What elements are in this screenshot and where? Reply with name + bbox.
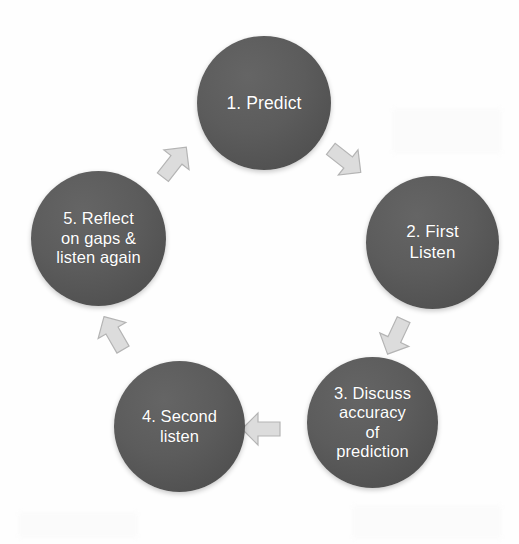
arrow-up-left-icon — [81, 301, 147, 367]
cycle-node-5-reflect: 5. Reflect on gaps & listen again — [31, 171, 166, 306]
cycle-node-1-predict: 1. Predict — [197, 36, 331, 170]
arrow-up-right-icon — [140, 129, 207, 196]
cycle-node-1-label: 1. Predict — [221, 93, 308, 114]
cycle-node-2-first-listen: 2. First Listen — [366, 176, 499, 309]
cycle-node-4-second-listen: 4. Second listen — [114, 361, 245, 492]
cycle-node-3-label: 3. Discuss accuracy of prediction — [328, 384, 417, 462]
diagram-canvas: 1. Predict 2. First Listen 3. Discuss ac… — [0, 0, 519, 544]
cycle-node-5-label: 5. Reflect on gaps & listen again — [50, 209, 147, 267]
cycle-node-4-label: 4. Second listen — [136, 407, 223, 446]
cycle-node-3-discuss-accuracy: 3. Discuss accuracy of prediction — [307, 357, 438, 488]
cycle-node-2-label: 2. First Listen — [400, 222, 465, 262]
cycle-diagram: 1. Predict 2. First Listen 3. Discuss ac… — [0, 0, 519, 544]
arrow-left-icon — [238, 405, 286, 453]
